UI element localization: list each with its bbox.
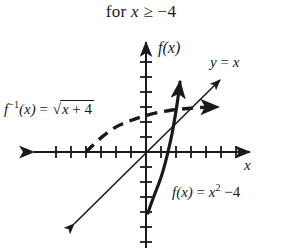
function-arg: (x) [176,184,193,200]
inverse-function-curve [86,107,218,152]
y-axis-label: f(x) [158,40,180,56]
identity-line-rhs: x [233,54,240,70]
y-axis-label-arg: (x) [162,39,180,56]
function-label: f(x) = x2 −4 [172,183,240,200]
inverse-fn-arg: (x) [19,101,36,117]
radicand: x + 4 [60,100,94,117]
inverse-fn-exponent: −1 [8,99,19,110]
radical-sign: √x + 4 [52,100,94,117]
graph-figure: for x ≥ −4 [0,0,282,248]
identity-line-eq: = [217,54,233,70]
function-rest: −4 [221,184,241,200]
inverse-fn-eq: = [36,101,52,117]
inverse-function-label: f−1(x) = √x + 4 [4,100,94,117]
y-axis [140,42,152,248]
identity-line-label: y = x [210,55,239,70]
radicand-rest: + 4 [69,101,92,117]
identity-line-lhs: y [210,54,217,70]
function-eq: = [193,184,209,200]
coordinate-plane [0,0,282,248]
x-axis-label: x [244,158,251,173]
radicand-variable: x [62,101,69,117]
